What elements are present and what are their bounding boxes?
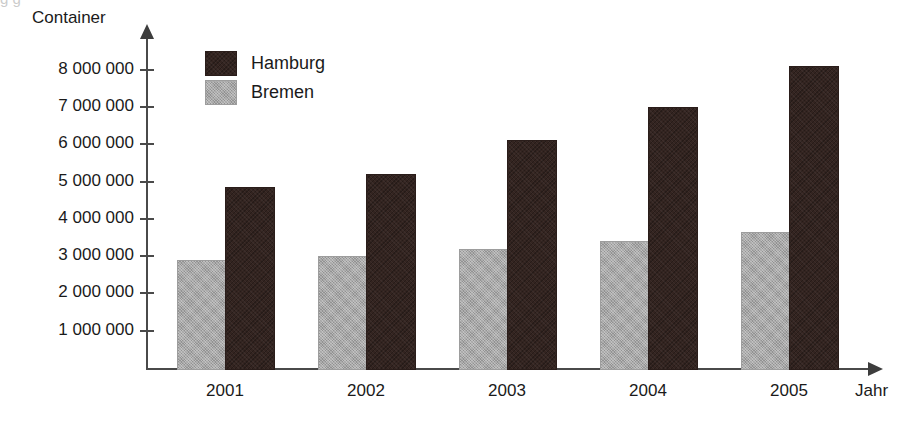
- bars-layer: [0, 0, 922, 369]
- bar-hamburg-2005: [789, 66, 839, 370]
- bar-bremen-2005: [741, 232, 791, 370]
- x-axis-title: Jahr: [855, 381, 888, 401]
- bar-bremen-2002: [318, 256, 368, 370]
- x-axis-label-2003: 2003: [447, 381, 567, 401]
- bar-hamburg-2002: [366, 174, 416, 370]
- x-axis-label-2005: 2005: [729, 381, 849, 401]
- x-axis-label-2001: 2001: [165, 381, 285, 401]
- bar-bremen-2001: [177, 260, 227, 370]
- chart-page: g g Container Jahr 1 000 0002 000 0003 0…: [0, 0, 922, 423]
- bar-hamburg-2003: [507, 140, 557, 370]
- legend-item-bremen: Bremen: [205, 78, 325, 107]
- bar-bremen-2003: [459, 249, 509, 370]
- bar-bremen-2004: [600, 241, 650, 370]
- bar-hamburg-2001: [225, 187, 275, 370]
- legend-label-bremen: Bremen: [251, 82, 314, 103]
- legend-item-hamburg: Hamburg: [205, 49, 325, 78]
- x-axis-label-2002: 2002: [306, 381, 426, 401]
- bar-hamburg-2004: [648, 107, 698, 370]
- x-axis-label-2004: 2004: [588, 381, 708, 401]
- chart-legend: HamburgBremen: [205, 49, 325, 107]
- legend-swatch-bremen-icon: [205, 80, 237, 105]
- legend-label-hamburg: Hamburg: [251, 53, 325, 74]
- legend-swatch-hamburg-icon: [205, 51, 237, 76]
